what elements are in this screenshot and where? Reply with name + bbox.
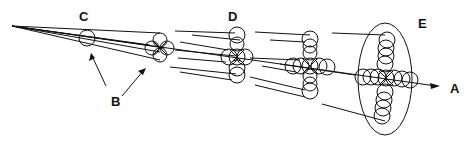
diagram-canvas: C B D E A <box>0 0 472 141</box>
b-arrows <box>89 53 146 96</box>
label-c: C <box>79 10 88 23</box>
label-d: D <box>228 10 237 23</box>
label-b: B <box>111 95 120 108</box>
label-a: A <box>450 82 459 95</box>
cluster-e <box>355 32 418 124</box>
label-e: E <box>418 17 427 30</box>
source-rays <box>12 26 165 60</box>
